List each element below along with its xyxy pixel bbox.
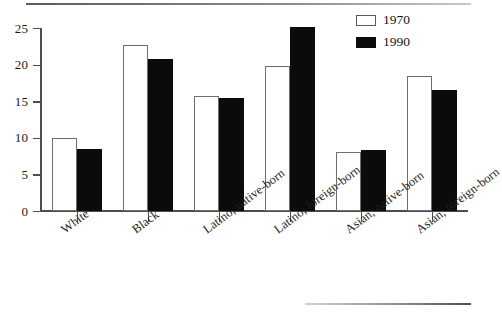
bar-1990-asian-foreign-born <box>432 90 457 211</box>
legend-item-1990: 1990 <box>356 33 464 51</box>
y-axis-tick: 20 <box>33 65 41 66</box>
y-axis-tick-label: 5 <box>21 168 33 181</box>
y-axis-tick: 5 <box>33 174 41 175</box>
bottom-horizontal-rule <box>305 303 471 305</box>
y-axis-tick: 0 <box>33 211 41 212</box>
legend-item-1970: 1970 <box>356 11 464 29</box>
bar-1970-black <box>123 45 148 211</box>
bar-1970-white <box>52 138 77 211</box>
bar-1990-black <box>148 59 173 211</box>
x-axis-label-white: White <box>59 207 91 236</box>
bar-1990-latino-foreign-born <box>290 27 315 211</box>
chart-legend: 19701990 <box>356 11 464 55</box>
x-axis-label-black: Black <box>130 208 161 236</box>
top-horizontal-rule <box>26 3 471 5</box>
bar-1990-white <box>77 149 102 211</box>
bar-1970-latino-native-born <box>194 96 219 211</box>
y-axis-tick: 25 <box>33 28 41 29</box>
y-axis-tick: 10 <box>33 138 41 139</box>
y-axis-tick-label: 20 <box>15 59 33 72</box>
legend-label: 1970 <box>383 13 410 27</box>
y-axis-tick: 15 <box>33 101 41 102</box>
legend-swatch-white-outlined-box <box>356 15 376 26</box>
legend-label: 1990 <box>383 35 410 49</box>
y-axis-tick-label: 15 <box>15 95 33 108</box>
legend-swatch-black-filled-box <box>356 37 376 48</box>
y-axis-tick-label: 10 <box>15 132 33 145</box>
y-axis-tick-label: 0 <box>21 205 33 218</box>
y-axis-tick-label: 25 <box>15 22 33 35</box>
